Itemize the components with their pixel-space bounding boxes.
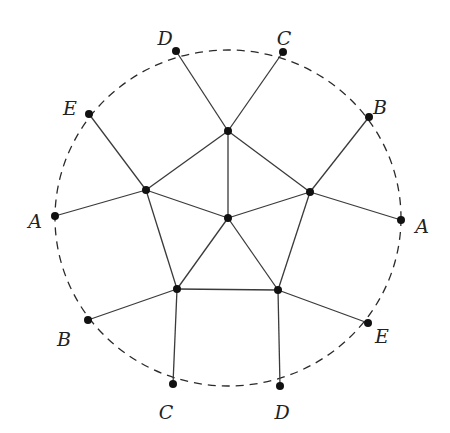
edge-center-bottom-right <box>228 218 278 290</box>
label-A-right: A <box>413 215 429 237</box>
node-C-bottom <box>169 380 177 388</box>
label-D-top: D <box>156 27 172 49</box>
label-A-left: A <box>26 210 42 232</box>
label-E-left: E <box>62 97 77 119</box>
node-D-bottom <box>276 382 284 390</box>
edge-right-A-right <box>310 192 401 220</box>
node-bottom-left <box>173 285 181 293</box>
node-right <box>306 188 314 196</box>
label-C-bottom: C <box>159 401 174 423</box>
node-E-right <box>364 319 372 327</box>
node-left <box>142 186 150 194</box>
node-E-left <box>85 110 93 118</box>
node-top <box>224 127 232 135</box>
edge-bottom-left-bottom-right <box>177 289 278 290</box>
edge-left-center <box>146 190 228 218</box>
edge-left-bottom-left <box>146 190 177 289</box>
edge-left-A-left <box>55 190 146 216</box>
label-B-left: B <box>56 328 71 350</box>
edge-right-bottom-right <box>278 192 310 290</box>
label-E-right: E <box>374 325 389 347</box>
edge-right-B-right <box>310 117 369 192</box>
edge-top-C-top <box>228 52 283 131</box>
graph-diagram: DCEBAABECD <box>0 0 450 433</box>
label-D-bottom: D <box>273 401 289 423</box>
edge-left-E-left <box>89 114 146 190</box>
node-bottom-right <box>274 286 282 294</box>
labels-group: DCEBAABECD <box>26 27 429 423</box>
edge-right-center <box>228 192 310 218</box>
edge-bottom-left-C-bottom <box>173 289 177 384</box>
edge-bottom-left-B-left <box>88 289 177 320</box>
edge-top-D-top <box>176 51 228 131</box>
node-B-left <box>84 316 92 324</box>
edge-bottom-right-D-bottom <box>278 290 280 386</box>
node-A-left <box>51 212 59 220</box>
edge-top-left <box>146 131 228 190</box>
node-B-right <box>365 113 373 121</box>
edge-bottom-right-E-right <box>278 290 368 323</box>
node-center <box>224 214 232 222</box>
nodes-group <box>51 47 405 390</box>
node-C-top <box>279 48 287 56</box>
node-A-right <box>397 216 405 224</box>
label-C-top: C <box>277 27 292 49</box>
edge-center-bottom-left <box>177 218 228 289</box>
node-D-top <box>172 47 180 55</box>
edge-top-right <box>228 131 310 192</box>
label-B-right: B <box>372 96 387 118</box>
